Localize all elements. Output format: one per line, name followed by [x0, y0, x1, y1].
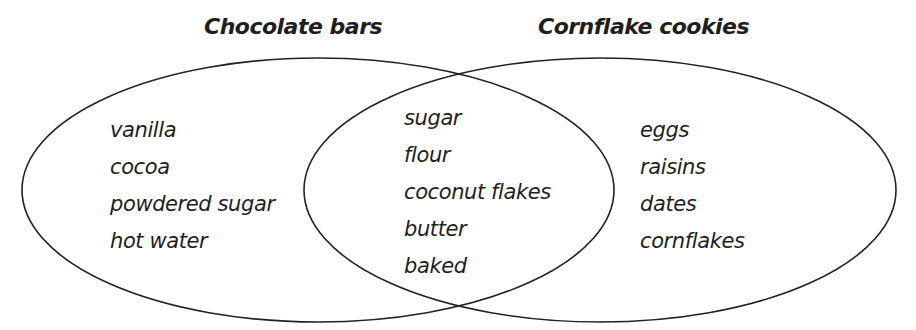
- list-item: vanilla: [110, 112, 275, 149]
- list-item: butter: [404, 211, 551, 248]
- list-item: cocoa: [110, 149, 275, 186]
- list-item: flour: [404, 137, 551, 174]
- list-item: eggs: [640, 112, 744, 149]
- list-item: cornflakes: [640, 223, 744, 260]
- list-item: sugar: [404, 100, 551, 137]
- list-item: powdered sugar: [110, 186, 275, 223]
- list-item: dates: [640, 186, 744, 223]
- right-only-list: eggs raisins dates cornflakes: [640, 112, 744, 260]
- left-only-list: vanilla cocoa powdered sugar hot water: [110, 112, 275, 260]
- right-ellipse: [304, 58, 896, 322]
- list-item: hot water: [110, 223, 275, 260]
- list-item: baked: [404, 248, 551, 285]
- list-item: raisins: [640, 149, 744, 186]
- intersection-list: sugar flour coconut flakes butter baked: [404, 100, 551, 285]
- list-item: coconut flakes: [404, 174, 551, 211]
